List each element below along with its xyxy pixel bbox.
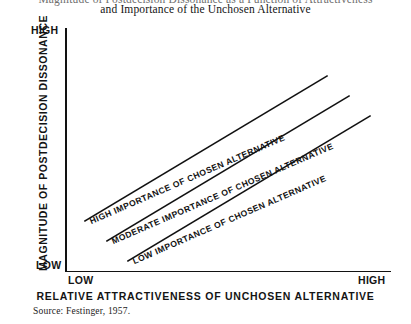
y-axis-title: MAGNITUDE OF POSTDECISION DISSONANCE <box>37 41 49 271</box>
series-line-moderate-importance <box>107 96 349 241</box>
series-line-low-importance <box>128 116 370 261</box>
source-note: Source: Festinger, 1957. <box>33 306 130 316</box>
figure-caption-line-2: and Importance of the Unchosen Alternati… <box>0 3 411 15</box>
x-axis-tick-low: LOW <box>68 274 93 286</box>
series-label-moderate-importance: MODERATE IMPORTANCE OF CHOSEN ALTERNATIV… <box>110 141 335 246</box>
x-axis-tick-high: HIGH <box>358 274 385 286</box>
figure-postdecision-dissonance: Magnitude of Postdecision Dissonance as … <box>0 0 411 324</box>
series-label-low-importance: LOW IMPORTANCE OF CHOSEN ALTERNATIVE <box>131 173 328 266</box>
x-axis-title: RELATIVE ATTRACTIVENESS OF UNCHOSEN ALTE… <box>0 290 411 302</box>
series-line-high-importance <box>85 76 327 221</box>
y-axis-line <box>65 28 67 272</box>
series-label-high-importance: HIGH IMPORTANCE OF CHOSEN ALTERNATIVE <box>88 132 286 226</box>
x-axis-line <box>65 271 391 273</box>
plot-area: HIGH IMPORTANCE OF CHOSEN ALTERNATIVE MO… <box>0 0 411 324</box>
